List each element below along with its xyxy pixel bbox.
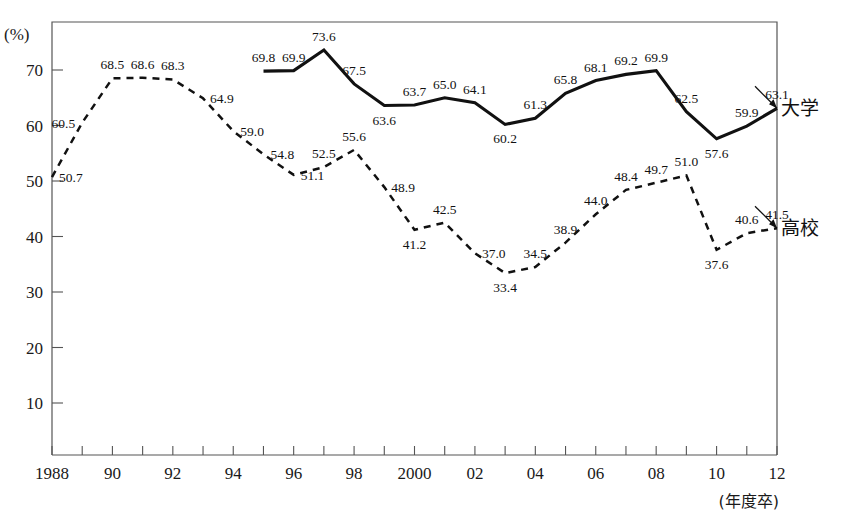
data-label: 37.6 <box>705 257 729 272</box>
data-label: 62.5 <box>675 91 699 106</box>
data-label: 69.8 <box>252 50 276 65</box>
data-label: 38.9 <box>554 222 578 237</box>
legend-label-highschool: 高校 <box>781 217 819 239</box>
data-label: 59.0 <box>240 124 264 139</box>
x-axis-tick-label: 92 <box>164 464 181 483</box>
data-label: 57.6 <box>705 146 729 161</box>
data-label: 51.0 <box>675 154 699 169</box>
data-label: 68.6 <box>131 57 155 72</box>
y-axis-tick-label: 20 <box>26 339 43 358</box>
x-axis-tick-label: 90 <box>104 464 121 483</box>
y-axis-tick-label: 40 <box>26 228 43 247</box>
data-label: 52.5 <box>312 146 336 161</box>
data-label: 63.6 <box>372 113 396 128</box>
data-label: 34.5 <box>523 246 547 261</box>
data-label: 60.2 <box>493 131 517 146</box>
legend-label-university: 大学 <box>781 97 819 119</box>
data-label: 41.2 <box>403 237 427 252</box>
x-axis-tick-label: 2000 <box>398 464 432 483</box>
data-label: 50.7 <box>59 170 83 185</box>
x-axis-unit-label: (年度卒) <box>719 492 779 511</box>
x-axis-tick-label: 04 <box>527 464 545 483</box>
line-chart: 10203040506070(%)19889092949698200002040… <box>0 0 851 521</box>
y-axis-tick-label: 70 <box>26 61 43 80</box>
data-label: 40.6 <box>735 212 759 227</box>
data-point-labels: 69.869.973.667.563.663.765.064.160.261.3… <box>52 29 789 295</box>
data-label: 55.6 <box>342 129 366 144</box>
data-label: 42.5 <box>433 202 457 217</box>
data-label: 63.7 <box>403 84 427 99</box>
data-label: 60.5 <box>52 116 76 131</box>
data-label: 37.0 <box>482 246 506 261</box>
series-line-university <box>264 50 778 139</box>
data-label: 33.4 <box>493 280 517 295</box>
data-label: 67.5 <box>342 63 366 78</box>
y-axis-tick-label: 10 <box>26 394 43 413</box>
x-axis-tick-label: 1988 <box>35 464 69 483</box>
data-label: 69.9 <box>644 50 668 65</box>
x-axis-tick-label: 98 <box>346 464 363 483</box>
data-label: 73.6 <box>312 29 336 44</box>
data-label: 68.5 <box>101 57 125 72</box>
data-label: 48.9 <box>391 180 415 195</box>
x-axis-tick-label: 96 <box>285 464 302 483</box>
data-label: 44.0 <box>584 193 608 208</box>
x-axis-tick-label: 12 <box>769 464 786 483</box>
y-axis-tick-label: 60 <box>26 117 43 136</box>
x-axis-tick-label: 10 <box>708 464 725 483</box>
data-label: 68.1 <box>584 60 608 75</box>
data-label: 68.3 <box>161 58 185 73</box>
chart-axes: 10203040506070(%)19889092949698200002040… <box>4 22 786 511</box>
y-axis-unit-label: (%) <box>4 25 29 44</box>
x-axis-tick-label: 02 <box>466 464 483 483</box>
data-label: 69.2 <box>614 53 638 68</box>
x-axis-tick-label: 08 <box>648 464 665 483</box>
data-label: 65.8 <box>554 72 578 87</box>
data-label: 64.9 <box>210 91 234 106</box>
data-label: 59.9 <box>735 105 759 120</box>
data-label: 64.1 <box>463 82 487 97</box>
data-label: 61.3 <box>523 97 547 112</box>
data-label: 48.4 <box>614 169 638 184</box>
x-axis-tick-label: 94 <box>225 464 243 483</box>
data-label: 65.0 <box>433 77 457 92</box>
x-axis-tick-label: 06 <box>587 464 604 483</box>
y-axis-tick-label: 50 <box>26 172 43 191</box>
data-label: 54.8 <box>271 147 295 162</box>
chart-container: 10203040506070(%)19889092949698200002040… <box>0 0 851 521</box>
data-label: 69.9 <box>282 50 306 65</box>
data-label: 51.1 <box>301 168 325 183</box>
y-axis-tick-label: 30 <box>26 283 43 302</box>
data-label: 49.7 <box>644 162 668 177</box>
chart-legend: 大学高校 <box>755 86 819 239</box>
